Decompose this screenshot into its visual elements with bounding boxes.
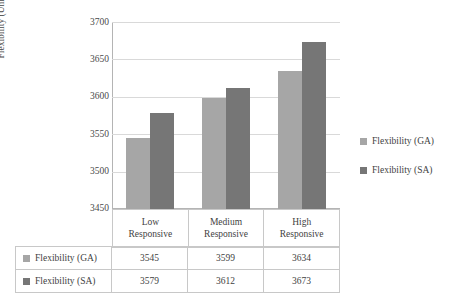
category-label-high: High Responsive	[264, 210, 340, 247]
bar-group-high-responsive	[264, 22, 340, 209]
table-cell-ga-low: 3545	[112, 247, 188, 269]
category-label-medium-line2: Responsive	[204, 229, 248, 241]
category-label-high-line2: Responsive	[280, 229, 324, 241]
category-label-low-line1: Low	[142, 217, 159, 229]
category-label-high-line1: High	[292, 217, 311, 229]
y-axis-title: Flexibility (Units)	[0, 0, 6, 84]
table-row-label-ga: Flexibility (GA)	[35, 253, 97, 263]
legend-swatch-ga-icon	[360, 138, 367, 145]
table-row-header-sa: Flexibility (SA)	[15, 270, 112, 292]
legend-item-sa: Flexibility (SA)	[360, 165, 455, 175]
table-swatch-sa-icon	[23, 278, 30, 285]
y-tick-label-3600: 3600	[69, 92, 109, 102]
table-row: Flexibility (GA) 3545 3599 3634	[15, 246, 340, 270]
table-cell-ga-medium: 3599	[188, 247, 264, 269]
legend-label-sa: Flexibility (SA)	[372, 165, 432, 175]
table-cell-ga-high: 3634	[264, 247, 340, 269]
chart-legend: Flexibility (GA) Flexibility (SA)	[360, 136, 455, 194]
category-label-low: Low Responsive	[112, 210, 189, 247]
y-tick-label-3450: 3450	[69, 204, 109, 214]
y-tick-label-3650: 3650	[69, 55, 109, 65]
legend-swatch-sa-icon	[360, 167, 367, 174]
table-row-header-ga: Flexibility (GA)	[15, 247, 112, 269]
y-tick-label-3700: 3700	[69, 18, 109, 28]
category-label-low-line2: Responsive	[128, 229, 172, 241]
legend-label-ga: Flexibility (GA)	[372, 136, 434, 146]
category-label-medium-line1: Medium	[210, 217, 242, 229]
table-swatch-ga-icon	[23, 255, 30, 262]
bar-groups	[112, 22, 340, 209]
bar-group-low-responsive	[112, 22, 188, 209]
plot-area	[112, 22, 340, 209]
bar-ga-high	[278, 71, 302, 209]
category-header-row: Low Responsive Medium Responsive High Re…	[112, 209, 340, 248]
category-label-medium: Medium Responsive	[189, 210, 265, 247]
chart-data-table: Flexibility (GA) 3545 3599 3634 Flexibil…	[15, 246, 340, 293]
y-tick-label-3500: 3500	[69, 167, 109, 177]
table-cell-sa-low: 3579	[112, 270, 188, 292]
bar-chart-figure: Flexibility (Units) 3700 3650 3600 3550 …	[0, 0, 455, 304]
table-cell-sa-medium: 3612	[188, 270, 264, 292]
legend-item-ga: Flexibility (GA)	[360, 136, 455, 146]
bar-sa-medium	[226, 88, 250, 209]
bar-ga-low	[126, 138, 150, 209]
table-row-label-sa: Flexibility (SA)	[35, 276, 95, 286]
y-tick-label-3550: 3550	[69, 130, 109, 140]
bar-sa-high	[302, 42, 326, 209]
bar-ga-medium	[202, 98, 226, 209]
table-cell-sa-high: 3673	[264, 270, 340, 292]
bar-group-medium-responsive	[188, 22, 264, 209]
table-row: Flexibility (SA) 3579 3612 3673	[15, 270, 340, 293]
bar-sa-low	[150, 113, 174, 209]
